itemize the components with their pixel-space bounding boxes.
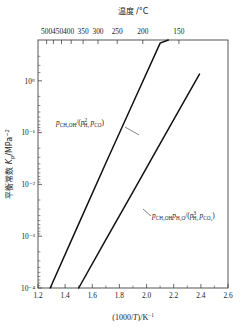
y-tick-label-5: 10⁻⁴ (21, 284, 35, 293)
x-axis-title-post: )/K (138, 313, 149, 322)
y-tick-label-4: 10⁻³ (21, 232, 35, 241)
top-tick-label-300: 300 (92, 27, 103, 36)
s2-close: ) (212, 211, 215, 220)
y-axis-ticks (38, 56, 42, 288)
top-axis-tick-labels: 500 450 400 350 300 250 200 150 (41, 27, 185, 36)
x-axis-title-pre: (1000/ (112, 313, 134, 322)
top-tick-label-250: 250 (112, 27, 123, 36)
top-tick-label-450: 450 (52, 27, 63, 36)
top-axis-title: 温度 /°C (118, 6, 149, 16)
top-tick-label-350: 350 (78, 27, 89, 36)
x-tick-label-4: 1.8 (115, 291, 125, 300)
top-tick-label-500: 500 (41, 27, 52, 36)
x-tick-label-2: 1.4 (60, 291, 70, 300)
chart-figure: 温度 /°C 500 450 400 350 300 250 200 150 (0, 0, 252, 331)
s2-sub2: H₂O (176, 215, 186, 221)
top-tick-label-200: 200 (137, 27, 148, 36)
leader-line-methanol-co2 (143, 209, 151, 216)
x-tick-label-7: 2.4 (196, 291, 206, 300)
y-tick-label-2: 10⁻¹ (21, 128, 35, 137)
top-tick-label-150: 150 (173, 27, 184, 36)
top-tick-label-400: 400 (63, 27, 74, 36)
x-axis-tick-labels: 1.2 1.4 1.6 1.8 2.0 2.2 2.4 2.6 (33, 291, 233, 300)
y-axis-title-pre: 平衡常数 (4, 164, 14, 199)
series-line-methanol-co2 (79, 74, 200, 288)
series-label-methanol-co: pCH₃OH/(p2H₂pCO) (55, 117, 105, 128)
series-line-methanol-co (50, 40, 168, 288)
chart-curves (50, 40, 199, 288)
top-axis-ticks (47, 40, 179, 44)
y-axis-title-sup: −2 (4, 129, 10, 137)
series-label-methanol-co2: pCH₃OHpH₂O/(p3H₂pCO₂) (151, 210, 215, 221)
x-tick-label-3: 1.6 (88, 291, 98, 300)
y-axis-title-post: /MPa (5, 137, 14, 156)
x-axis-title-sup: −1 (148, 312, 154, 318)
s2-sub1: CH₃OH (156, 215, 173, 221)
x-tick-label-5: 2.0 (142, 291, 152, 300)
s1-sub2: H₂ (84, 122, 90, 128)
y-tick-label-3: 10⁻² (21, 180, 35, 189)
y-axis-title: 平衡常数 Kp/MPa−2 (4, 129, 16, 199)
leader-line-methanol-co (125, 127, 139, 135)
s1-sub1: CH₃OH (60, 122, 77, 128)
s2-sub3: H₂ (193, 215, 199, 221)
y-tick-label-1: 10⁰ (25, 77, 35, 86)
x-axis-ticks (38, 284, 228, 288)
y-axis-tick-labels: 10⁰ 10⁻¹ 10⁻² 10⁻³ 10⁻⁴ (21, 77, 36, 293)
s2-sub4: CO₂ (203, 215, 212, 221)
x-axis-title: (1000/T)/K−1 (112, 312, 154, 322)
x-tick-label-6: 2.2 (169, 291, 179, 300)
s1-close: ) (102, 118, 105, 127)
x-tick-label-8: 2.6 (223, 291, 233, 300)
chart-svg: 温度 /°C 500 450 400 350 300 250 200 150 (0, 0, 252, 331)
